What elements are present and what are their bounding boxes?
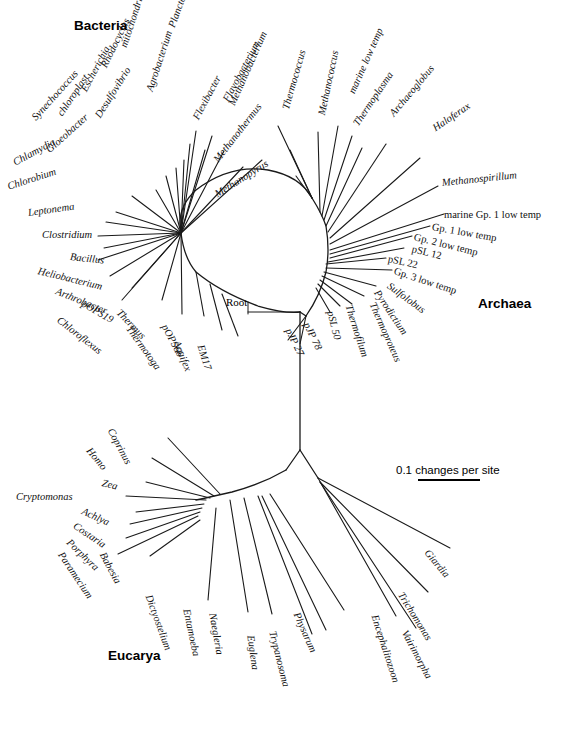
scale-bar: 0.1 changes per site xyxy=(396,464,500,476)
backbone-archaea-to-center xyxy=(300,312,306,316)
domain-label-archaea: Archaea xyxy=(478,296,531,311)
taxon-label: marine Gp. 1 low temp xyxy=(444,210,541,221)
phylogenetic-tree-figure: Bacteria Archaea Eucarya Root 0.1 change… xyxy=(0,0,568,755)
eucarya-arc-left xyxy=(196,470,286,500)
eucarya-node-split xyxy=(286,450,300,470)
taxon-label: Cryptomonas xyxy=(16,492,73,503)
domain-label-eucarya: Eucarya xyxy=(108,648,161,663)
scale-bar-label: 0.1 changes per site xyxy=(396,464,500,476)
eucarya-arc-right xyxy=(300,450,318,478)
backbone-archaea-node xyxy=(306,198,328,316)
taxon-label: Clostridium xyxy=(42,230,92,241)
root-label: Root xyxy=(226,296,247,308)
scale-bar-rule xyxy=(418,479,480,481)
tree-branches xyxy=(98,126,450,634)
